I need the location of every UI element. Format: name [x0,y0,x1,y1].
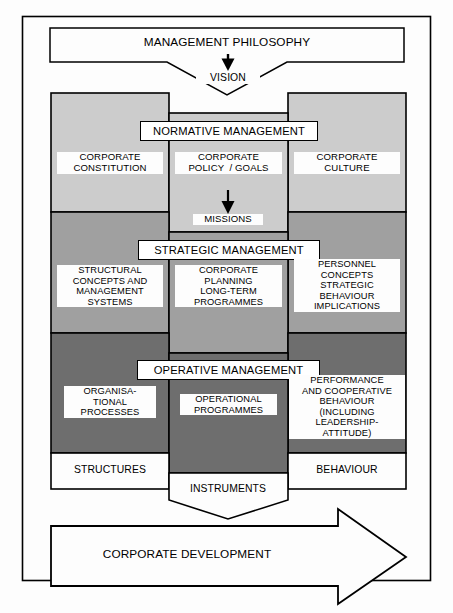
structures-label: STRUCTURES [55,464,165,476]
diagram-canvas: MANAGEMENT PHILOSOPHY VISION NORMATIVE M… [0,0,453,613]
behaviour-label: BEHAVIOUR [292,464,402,476]
operative-left-cell-label: ORGANISA- TIONAL PROCESSES [64,386,156,418]
normative-management-title: NORMATIVE MANAGEMENT [140,121,318,141]
corporate-development-label: CORPORATE DEVELOPMENT [62,548,312,561]
normative-center-cell-label: CORPORATE POLICY / GOALS [175,152,282,174]
vision-label: VISION [196,72,260,84]
normative-left-cell-label: CORPORATE CONSTITUTION [57,152,163,174]
instruments-label: INSTRUMENTS [173,483,283,495]
missions-label: MISSIONS [193,214,263,225]
strategic-center-cell-label: CORPORATE PLANNING LONG-TERM PROGRAMMES [175,265,282,307]
strategic-left-cell-label: STRUCTURAL CONCEPTS AND MANAGEMENT SYSTE… [57,265,163,307]
strategic-management-title: STRATEGIC MANAGEMENT [138,240,320,260]
operative-center-cell-label: OPERATIONAL PROGRAMMES [180,394,277,415]
normative-right-cell-label: CORPORATE CULTURE [294,152,400,174]
operative-right-cell-label: PERFORMANCE AND COOPERATIVE BEHAVIOUR (I… [289,375,405,439]
strategic-right-cell-label: PERSONNEL CONCEPTS STRATEGIC BEHAVIOUR I… [294,259,400,312]
management-philosophy-label: MANAGEMENT PHILOSOPHY [50,36,404,49]
